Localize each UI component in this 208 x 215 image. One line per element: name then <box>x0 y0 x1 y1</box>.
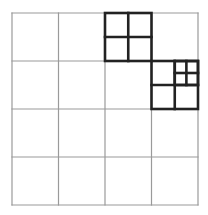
grid-canvas <box>0 0 208 215</box>
